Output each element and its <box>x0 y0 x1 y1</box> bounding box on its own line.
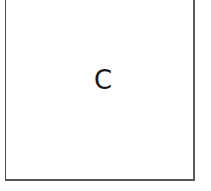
card-letter: C <box>92 66 114 94</box>
letter-card: C <box>5 0 195 181</box>
